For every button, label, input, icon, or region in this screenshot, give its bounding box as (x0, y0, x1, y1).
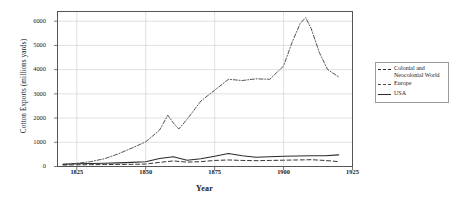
x-axis-tick-labels: 18251850187519001925 (0, 168, 450, 180)
legend-swatch-dashdot-icon (377, 80, 392, 89)
series-line-0 (63, 160, 339, 165)
legend-item: Europe (377, 80, 447, 89)
legend-swatch-solid-icon (377, 90, 392, 99)
legend-label: Colonial and Neocolonial World (394, 65, 440, 79)
x-tick-label: 1925 (346, 168, 359, 176)
chart-legend: Colonial and Neocolonial WorldEuropeUSA (375, 62, 449, 103)
chart-figure: Cotton Exports (millions yards) 01000200… (0, 0, 450, 204)
x-tick-label: 1875 (208, 168, 221, 176)
gridlines (58, 12, 353, 167)
tick-marks (54, 21, 353, 170)
data-series-layer (63, 18, 339, 166)
axes-frame (58, 12, 353, 167)
x-axis-title: Year (57, 184, 352, 193)
x-tick-label: 1850 (139, 168, 152, 176)
legend-label: USA (394, 90, 406, 97)
x-tick-label: 1825 (70, 168, 83, 176)
legend-item: Colonial and Neocolonial World (377, 65, 447, 79)
x-tick-label: 1900 (277, 168, 290, 176)
legend-label: Europe (394, 80, 411, 87)
legend-swatch-dashed-icon (377, 65, 392, 74)
series-line-2 (63, 153, 339, 164)
legend-item: USA (377, 90, 447, 99)
